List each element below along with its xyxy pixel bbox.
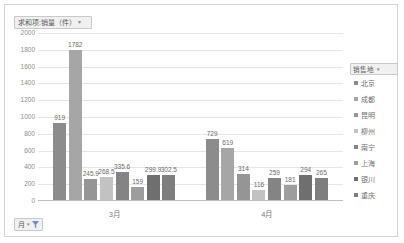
gridline <box>38 50 343 51</box>
bar[interactable] <box>299 175 312 200</box>
chevron-down-icon: ▾ <box>27 219 30 230</box>
legend-item[interactable]: 银川 <box>350 171 398 187</box>
filter-funnel-icon <box>32 221 39 229</box>
legend-item[interactable]: 上海 <box>350 155 398 171</box>
y-axis-tick-label: 1000 <box>5 113 35 120</box>
legend-item-label: 成都 <box>361 94 375 104</box>
legend-swatch-icon <box>354 193 358 197</box>
bar-value-label: 265 <box>306 169 337 177</box>
gridline <box>38 100 343 101</box>
legend-item[interactable]: 成都 <box>350 91 398 107</box>
bar-value-label: 1782 <box>60 41 91 49</box>
legend-swatch-icon <box>354 97 358 101</box>
bar[interactable] <box>284 185 297 200</box>
bar[interactable] <box>206 139 219 200</box>
y-axis-tick-label: 1400 <box>5 79 35 86</box>
plot-area: 9191782245.9268.5335.6159299.9302.572961… <box>38 33 343 201</box>
legend-swatch-icon <box>354 161 358 165</box>
bar[interactable] <box>315 178 328 200</box>
bar[interactable] <box>100 177 113 200</box>
bar-value-label: 619 <box>212 139 243 147</box>
y-axis-tick-label: 200 <box>5 180 35 187</box>
legend-swatch-icon <box>354 113 358 117</box>
gridline <box>38 134 343 135</box>
legend-item[interactable]: 重庆 <box>350 187 398 203</box>
bar[interactable] <box>162 175 175 200</box>
legend-item-label: 银川 <box>361 174 375 184</box>
bar[interactable] <box>53 123 66 200</box>
legend-item-label: 南宁 <box>361 142 375 152</box>
y-axis-tick-label: 400 <box>5 163 35 170</box>
legend-item[interactable]: 南宁 <box>350 139 398 155</box>
bar[interactable] <box>252 190 265 200</box>
legend-item[interactable]: 北京 <box>350 75 398 91</box>
legend: 销售地 ▾ 北京成都昆明柳州南宁上海银川重庆 <box>350 63 398 203</box>
legend-swatch-icon <box>354 145 358 149</box>
y-axis-tick-label: 1600 <box>5 63 35 70</box>
pivot-chart-frame: 求和项:销量（件） ▾ 2000180016001400120010008006… <box>4 4 398 237</box>
legend-swatch-icon <box>354 129 358 133</box>
month-filter-label: 月 <box>18 219 25 230</box>
gridline <box>38 151 343 152</box>
chevron-down-icon: ▾ <box>78 17 81 28</box>
x-axis-category-label: 4月 <box>191 208 344 219</box>
legend-swatch-icon <box>354 177 358 181</box>
bar[interactable] <box>116 172 129 200</box>
chevron-down-icon: ▾ <box>377 66 380 72</box>
x-axis-category-label: 3月 <box>38 208 191 219</box>
gridline <box>38 117 343 118</box>
y-axis-tick-label: 800 <box>5 130 35 137</box>
bar-value-label: 729 <box>197 130 228 138</box>
legend-item[interactable]: 昆明 <box>350 107 398 123</box>
bar[interactable] <box>131 187 144 200</box>
legend-item-label: 北京 <box>361 78 375 88</box>
legend-swatch-icon <box>354 81 358 85</box>
value-field-button[interactable]: 求和项:销量（件） ▾ <box>14 16 92 29</box>
y-axis-tick-label: 1800 <box>5 46 35 53</box>
legend-items: 北京成都昆明柳州南宁上海银川重庆 <box>350 75 398 203</box>
bar-value-label: 314 <box>228 165 259 173</box>
bar[interactable] <box>221 148 234 200</box>
value-field-label: 求和项:销量（件） <box>18 17 76 28</box>
bar-value-label: 335.6 <box>107 163 138 171</box>
bar-value-label: 302.5 <box>153 166 184 174</box>
gridline <box>38 83 343 84</box>
y-axis-tick-label: 0 <box>5 197 35 204</box>
y-axis: 2000180016001400120010008006004002000 <box>5 33 37 201</box>
gridline <box>38 67 343 68</box>
y-axis-tick-label: 600 <box>5 147 35 154</box>
legend-item-label: 重庆 <box>361 190 375 200</box>
legend-field-button[interactable]: 销售地 ▾ <box>350 63 398 75</box>
month-filter-button[interactable]: 月 ▾ <box>14 218 43 231</box>
legend-item[interactable]: 柳州 <box>350 123 398 139</box>
gridline <box>38 33 343 34</box>
bar[interactable] <box>84 179 97 200</box>
y-axis-tick-label: 1200 <box>5 96 35 103</box>
legend-item-label: 上海 <box>361 158 375 168</box>
legend-title: 销售地 <box>353 64 374 74</box>
bar[interactable] <box>147 175 160 200</box>
y-axis-tick-label: 2000 <box>5 29 35 36</box>
x-axis-line <box>38 200 343 201</box>
legend-item-label: 柳州 <box>361 126 375 136</box>
legend-item-label: 昆明 <box>361 110 375 120</box>
